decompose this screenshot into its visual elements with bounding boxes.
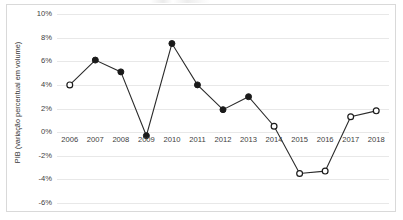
y-axis-tick-label: 10% xyxy=(22,10,52,18)
y-axis-tick-label: 6% xyxy=(22,57,52,65)
x-axis-tick-label: 2018 xyxy=(361,135,391,144)
y-axis-tick-label: -6% xyxy=(22,199,52,207)
y-axis-tick-label: 0% xyxy=(22,128,52,136)
y-axis-tick-label: -2% xyxy=(22,152,52,160)
y-axis-tick-label: -4% xyxy=(22,175,52,183)
y-axis-title: PIB (variação percentual em volume) xyxy=(13,8,22,198)
y-axis-tick-label: 2% xyxy=(22,105,52,113)
x-axis-tick-labels: 2006200720082009201020112012201320142015… xyxy=(57,0,389,220)
y-axis-tick-labels: 10%8%6%4%2%0%-2%-4%-6% xyxy=(22,0,52,220)
chart-container: PIB (variação percentual em volume) 10%8… xyxy=(0,0,403,220)
y-axis-tick-label: 8% xyxy=(22,34,52,42)
y-axis-tick-label: 4% xyxy=(22,81,52,89)
